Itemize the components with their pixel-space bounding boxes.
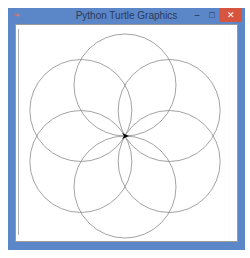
turtle-drawing	[0, 0, 250, 258]
